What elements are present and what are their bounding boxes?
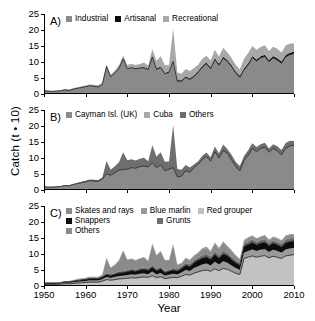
legend-item[interactable]: Cayman Isl. (UK) xyxy=(66,110,137,120)
y-tick-label: 0 xyxy=(34,185,39,195)
y-tick xyxy=(41,158,44,159)
panel-letter-a: A) xyxy=(50,15,61,27)
y-tick-label: 10 xyxy=(28,249,39,259)
y-tick-label: 15 xyxy=(28,233,39,243)
y-tick-label: 25 xyxy=(28,9,39,19)
legend-label: Recreational xyxy=(172,14,218,24)
y-tick xyxy=(41,62,44,63)
y-tick-label: 0 xyxy=(34,89,39,99)
legend-swatch-icon xyxy=(180,112,186,118)
y-axis-line xyxy=(44,14,45,94)
legend-label: Cuba xyxy=(153,110,173,120)
panel-b-plot-area: 0510152025 xyxy=(44,110,294,190)
legend-swatch-icon xyxy=(66,16,72,22)
panel-c-legend: Skates and raysBlue marlinRed grouperSna… xyxy=(66,206,259,236)
x-tick xyxy=(86,94,87,97)
y-tick-label: 10 xyxy=(28,57,39,67)
y-tick-label: 10 xyxy=(28,153,39,163)
legend-row: SnappersGrunts xyxy=(66,216,259,226)
y-tick xyxy=(41,206,44,207)
y-tick-label: 25 xyxy=(28,105,39,115)
panel-b: 0510152025 B)Cayman Isl. (UK)CubaOthers xyxy=(44,110,294,190)
y-tick-label: 25 xyxy=(28,201,39,211)
legend-row: IndustrialArtisanalRecreational xyxy=(66,14,225,24)
panel-a: 0510152025 A)IndustrialArtisanalRecreati… xyxy=(44,14,294,94)
legend-swatch-icon xyxy=(66,228,72,234)
legend-item[interactable]: Snappers xyxy=(66,216,110,226)
x-tick xyxy=(211,94,212,97)
x-tick xyxy=(169,190,170,193)
y-tick-label: 5 xyxy=(34,169,39,179)
legend-label: Others xyxy=(75,226,100,236)
y-axis-line xyxy=(44,110,45,190)
legend-item[interactable]: Recreational xyxy=(163,14,218,24)
y-tick xyxy=(41,270,44,271)
x-tick xyxy=(294,94,295,97)
x-tick xyxy=(127,190,128,193)
x-tick xyxy=(127,94,128,97)
x-tick-label: 1990 xyxy=(200,290,221,300)
figure-container: Catch (t • 10) 0510152025 A)IndustrialAr… xyxy=(0,0,315,321)
y-tick-label: 20 xyxy=(28,121,39,131)
legend-item[interactable]: Grunts xyxy=(157,216,191,226)
y-tick-label: 20 xyxy=(28,25,39,35)
x-tick xyxy=(44,94,45,97)
legend-item[interactable]: Artisanal xyxy=(115,14,156,24)
panel-b-legend: Cayman Isl. (UK)CubaOthers xyxy=(66,110,220,120)
panel-letter-c: C) xyxy=(50,207,62,219)
legend-row: Skates and raysBlue marlinRed grouper xyxy=(66,206,259,216)
legend-item[interactable]: Others xyxy=(66,226,100,236)
legend-label: Others xyxy=(189,110,214,120)
x-tick-label: 1970 xyxy=(117,290,138,300)
x-axis-label: Year xyxy=(44,302,294,314)
x-tick-label: 2000 xyxy=(242,290,263,300)
legend-swatch-icon xyxy=(66,218,72,224)
x-tick xyxy=(252,190,253,193)
legend-swatch-icon xyxy=(157,218,163,224)
panel-a-plot-area: 0510152025 xyxy=(44,14,294,94)
legend-swatch-icon xyxy=(141,208,147,214)
x-tick xyxy=(211,190,212,193)
legend-label: Grunts xyxy=(166,216,191,226)
x-tick-label: 1960 xyxy=(75,290,96,300)
panel-c: 05101520251950196019701980199020002010 C… xyxy=(44,206,294,286)
y-tick xyxy=(41,110,44,111)
x-tick xyxy=(86,190,87,193)
legend-item[interactable]: Industrial xyxy=(66,14,108,24)
y-tick xyxy=(41,222,44,223)
panel-a-series-svg xyxy=(44,14,294,94)
legend-label: Artisanal xyxy=(124,14,156,24)
legend-item[interactable]: Blue marlin xyxy=(141,206,191,216)
y-axis-label: Catch (t • 10) xyxy=(9,96,21,186)
x-tick-label: 1980 xyxy=(158,290,179,300)
legend-item[interactable]: Others xyxy=(180,110,214,120)
legend-item[interactable]: Cuba xyxy=(144,110,173,120)
y-tick-label: 5 xyxy=(34,73,39,83)
y-tick xyxy=(41,238,44,239)
legend-swatch-icon xyxy=(198,208,204,214)
x-tick xyxy=(169,94,170,97)
panel-a-legend: IndustrialArtisanalRecreational xyxy=(66,14,225,24)
legend-item[interactable]: Red grouper xyxy=(198,206,253,216)
y-tick-label: 15 xyxy=(28,41,39,51)
y-tick xyxy=(41,254,44,255)
legend-swatch-icon xyxy=(144,112,150,118)
legend-swatch-icon xyxy=(115,16,121,22)
legend-row: Cayman Isl. (UK)CubaOthers xyxy=(66,110,220,120)
y-tick-label: 20 xyxy=(28,217,39,227)
x-tick xyxy=(252,94,253,97)
legend-label: Red grouper xyxy=(207,206,253,216)
legend-row: Others xyxy=(66,226,259,236)
y-tick xyxy=(41,14,44,15)
y-tick xyxy=(41,30,44,31)
y-tick-label: 5 xyxy=(34,265,39,275)
legend-swatch-icon xyxy=(163,16,169,22)
x-tick xyxy=(44,190,45,193)
y-axis-line xyxy=(44,206,45,286)
legend-label: Blue marlin xyxy=(150,206,191,216)
legend-label: Skates and rays xyxy=(75,206,134,216)
panel-b-series-svg xyxy=(44,110,294,190)
x-tick-label: 1950 xyxy=(33,290,54,300)
legend-item[interactable]: Skates and rays xyxy=(66,206,134,216)
y-tick xyxy=(41,78,44,79)
